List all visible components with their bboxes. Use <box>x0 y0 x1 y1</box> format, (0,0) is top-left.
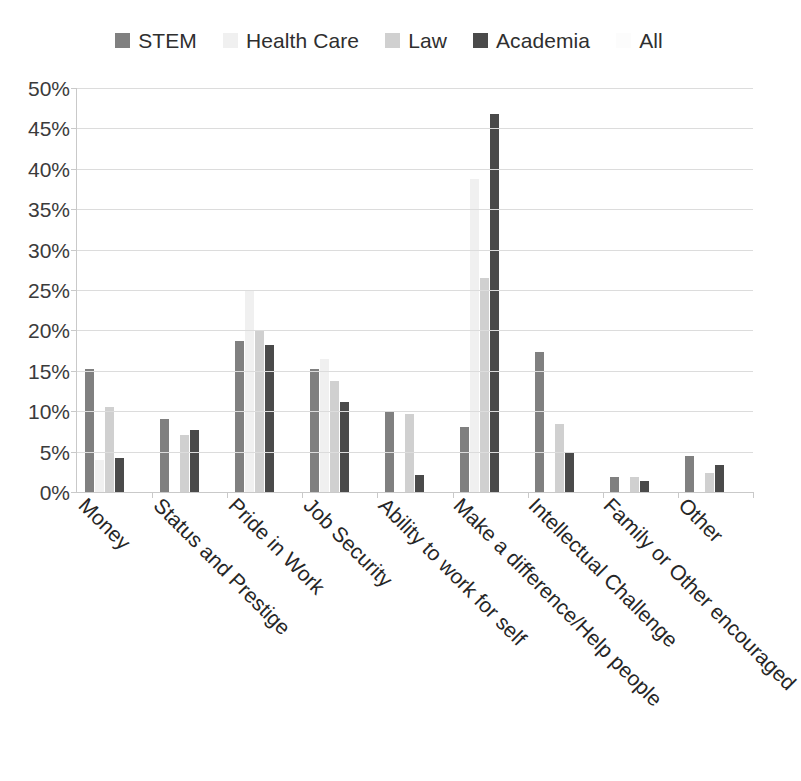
gridline <box>77 290 753 291</box>
x-axis-label: Other <box>675 494 728 547</box>
legend-label: Law <box>408 30 447 51</box>
bar[interactable] <box>245 290 254 492</box>
y-tick-label: 40% <box>28 158 70 179</box>
bar[interactable] <box>705 473 714 492</box>
legend-label: Academia <box>496 30 590 51</box>
legend-item[interactable]: All <box>616 30 663 51</box>
bar[interactable] <box>685 456 694 492</box>
legend-item[interactable]: Law <box>385 30 447 51</box>
gridline <box>77 209 753 210</box>
legend-swatch-icon <box>385 33 400 48</box>
chart-legend: STEMHealth CareLawAcademiaAll <box>0 30 778 51</box>
y-axis-tick <box>71 250 77 251</box>
bar[interactable] <box>95 460 104 492</box>
gridline <box>77 371 753 372</box>
x-axis-label: Ability to work for self <box>374 494 530 650</box>
gridline <box>77 250 753 251</box>
bar[interactable] <box>320 359 329 492</box>
x-axis-label: Money <box>74 494 134 554</box>
bar[interactable] <box>460 427 469 492</box>
bar[interactable] <box>235 341 244 492</box>
bar[interactable] <box>640 481 649 492</box>
y-axis: 0%5%10%15%20%25%30%35%40%45%50% <box>14 88 70 492</box>
y-axis-tick <box>71 128 77 129</box>
legend-item[interactable]: STEM <box>115 30 197 51</box>
gridline <box>77 88 753 89</box>
legend-label: STEM <box>138 30 197 51</box>
y-axis-tick <box>71 452 77 453</box>
gridline <box>77 411 753 412</box>
y-tick-label: 30% <box>28 239 70 260</box>
gridline <box>77 452 753 453</box>
legend-swatch-icon <box>473 33 488 48</box>
bar[interactable] <box>565 452 574 492</box>
gridline <box>77 128 753 129</box>
plot-area <box>76 88 753 493</box>
bar[interactable] <box>85 369 94 492</box>
legend-label: Health Care <box>246 30 359 51</box>
bar[interactable] <box>190 430 199 492</box>
bar[interactable] <box>310 369 319 492</box>
bar[interactable] <box>610 477 619 492</box>
bar[interactable] <box>415 475 424 492</box>
x-axis-label: Intellectual Challenge <box>525 494 683 652</box>
bar[interactable] <box>470 179 479 492</box>
legend-swatch-icon <box>115 33 130 48</box>
x-axis-labels: MoneyStatus and PrestigePride in WorkJob… <box>76 494 752 724</box>
y-tick-label: 45% <box>28 118 70 139</box>
x-axis-label: Status and Prestige <box>149 494 294 639</box>
bar[interactable] <box>630 477 639 492</box>
legend-label: All <box>639 30 663 51</box>
y-tick-label: 0% <box>40 482 70 503</box>
y-tick-label: 10% <box>28 401 70 422</box>
y-axis-tick <box>71 411 77 412</box>
bar[interactable] <box>105 407 114 492</box>
bar[interactable] <box>535 352 544 492</box>
x-axis-tick <box>753 492 754 498</box>
y-tick-label: 20% <box>28 320 70 341</box>
y-axis-tick <box>71 290 77 291</box>
legend-item[interactable]: Academia <box>473 30 590 51</box>
bar[interactable] <box>405 414 414 492</box>
bar[interactable] <box>330 381 339 493</box>
y-axis-tick <box>71 371 77 372</box>
y-axis-tick <box>71 169 77 170</box>
bar[interactable] <box>715 465 724 492</box>
bar[interactable] <box>160 419 169 492</box>
bar[interactable] <box>480 278 489 492</box>
y-tick-label: 50% <box>28 78 70 99</box>
gridline <box>77 169 753 170</box>
y-axis-tick <box>71 209 77 210</box>
bar[interactable] <box>265 345 274 492</box>
legend-swatch-icon <box>616 33 631 48</box>
bar[interactable] <box>555 424 564 492</box>
y-axis-tick <box>71 330 77 331</box>
bar[interactable] <box>115 458 124 492</box>
gridline <box>77 330 753 331</box>
bar[interactable] <box>340 402 349 492</box>
bar[interactable] <box>490 114 499 492</box>
y-tick-label: 5% <box>40 441 70 462</box>
legend-item[interactable]: Health Care <box>223 30 359 51</box>
y-tick-label: 25% <box>28 280 70 301</box>
y-axis-tick <box>71 88 77 89</box>
y-axis-tick <box>71 492 77 493</box>
legend-swatch-icon <box>223 33 238 48</box>
y-tick-label: 35% <box>28 199 70 220</box>
y-tick-label: 15% <box>28 360 70 381</box>
bar[interactable] <box>180 435 189 492</box>
